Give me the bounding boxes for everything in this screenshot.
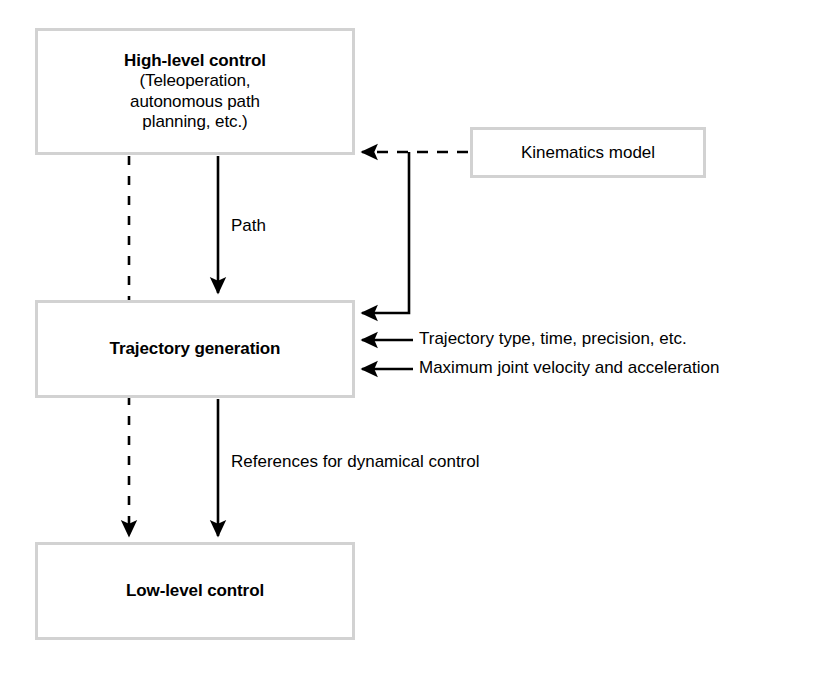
node-high-level-control-subtitle-line-3: planning, etc.) (124, 112, 266, 132)
node-high-level-control-text: High-level control (Teleoperation, auton… (124, 51, 266, 131)
node-high-level-control-title: High-level control (124, 51, 266, 71)
node-kinematics-model: Kinematics model (470, 127, 706, 178)
edge-label-references-for-dynamical-control: References for dynamical control (231, 452, 480, 472)
node-low-level-control: Low-level control (35, 542, 355, 640)
node-kinematics-model-title: Kinematics model (521, 143, 655, 163)
edge-label-path: Path (231, 216, 266, 236)
node-trajectory-generation-title: Trajectory generation (110, 339, 281, 359)
diagram-canvas: High-level control (Teleoperation, auton… (0, 0, 816, 676)
edge-label-trajectory-type: Trajectory type, time, precision, etc. (419, 329, 687, 349)
node-low-level-control-title: Low-level control (126, 581, 264, 601)
node-high-level-control-subtitle-line-1: (Teleoperation, (124, 71, 266, 91)
node-trajectory-generation: Trajectory generation (35, 300, 355, 398)
edge-label-maximum-joint: Maximum joint velocity and acceleration (419, 358, 719, 378)
edge-kinematics-to-trajectory-solid (362, 152, 409, 313)
node-high-level-control: High-level control (Teleoperation, auton… (35, 28, 355, 155)
node-high-level-control-subtitle-line-2: autonomous path (124, 92, 266, 112)
